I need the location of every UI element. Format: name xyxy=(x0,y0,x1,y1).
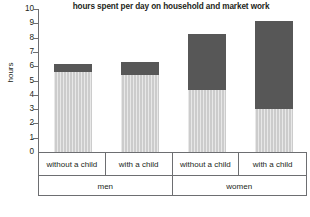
bar-segment-light-segment xyxy=(121,75,159,153)
bar xyxy=(188,10,226,153)
y-tick-label: 10 xyxy=(14,5,34,13)
stacked-bar-chart: hours spent per day on household and mar… xyxy=(0,0,310,217)
bar-segment-light-segment xyxy=(255,109,293,153)
y-tick-label: 7 xyxy=(14,48,34,56)
group-label-cell: women xyxy=(173,175,307,196)
category-label-cell: with a child xyxy=(106,153,173,175)
category-label-cell: without a child xyxy=(173,153,240,175)
category-label-cell: without a child xyxy=(39,153,106,175)
y-tick-mark xyxy=(33,9,38,10)
y-tick-label: 4 xyxy=(14,91,34,99)
y-tick-mark xyxy=(33,109,38,110)
y-tick-label: 6 xyxy=(14,62,34,70)
y-tick-mark xyxy=(33,81,38,82)
category-row-groups: menwomen xyxy=(39,175,306,196)
bar-segment-light-segment xyxy=(188,90,226,153)
y-tick-mark xyxy=(33,138,38,139)
y-tick-label: 3 xyxy=(14,105,34,113)
bar-segment-dark-segment xyxy=(121,62,159,76)
y-tick-label: 1 xyxy=(14,134,34,142)
bar-segment-dark-segment xyxy=(188,34,226,90)
y-tick-mark xyxy=(33,123,38,124)
y-tick-label: 0 xyxy=(14,148,34,156)
category-label-table: without a childwith a childwithout a chi… xyxy=(38,153,307,196)
bar xyxy=(121,10,159,153)
bar-segment-dark-segment xyxy=(255,21,293,108)
y-tick-mark xyxy=(33,38,38,39)
y-tick-mark xyxy=(33,23,38,24)
footer-strip xyxy=(0,200,310,217)
category-row-subgroups: without a childwith a childwithout a chi… xyxy=(39,153,306,175)
bar-segment-dark-segment xyxy=(54,64,92,72)
y-tick-mark xyxy=(33,52,38,53)
y-tick-mark xyxy=(33,66,38,67)
y-tick-label: 5 xyxy=(14,77,34,85)
bar xyxy=(54,10,92,153)
bar xyxy=(255,10,293,153)
category-label-cell: with a child xyxy=(239,153,306,175)
y-tick-label: 2 xyxy=(14,119,34,127)
y-axis-tick-labels: 109876543210 xyxy=(14,0,34,217)
bar-segment-light-segment xyxy=(54,72,92,154)
y-tick-mark xyxy=(33,95,38,96)
plot-area xyxy=(39,9,307,153)
y-tick-label: 9 xyxy=(14,19,34,27)
y-tick-label: 8 xyxy=(14,34,34,42)
group-label-cell: men xyxy=(39,175,173,196)
